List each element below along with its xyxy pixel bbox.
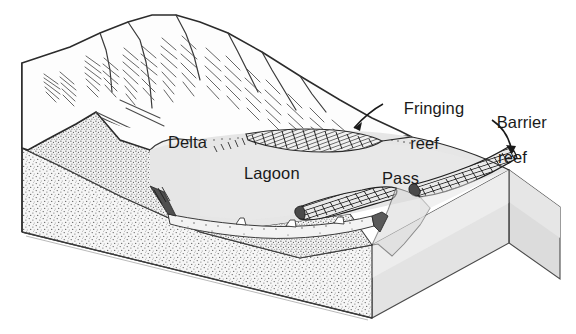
label-fringing-reef-line2: reef — [385, 135, 464, 152]
label-barrier-reef-line2: reef — [478, 149, 547, 166]
label-delta: Delta — [168, 134, 207, 151]
label-lagoon: Lagoon — [244, 165, 300, 182]
label-fringing-reef: Fringing reef — [385, 83, 464, 187]
label-fringing-reef-line1: Fringing — [404, 99, 464, 117]
label-barrier-reef-line1: Barrier — [497, 113, 547, 131]
label-barrier-reef: Barrier reef — [478, 97, 547, 201]
reef-block-diagram: Delta Lagoon Pass Fringing reef Barrier … — [0, 0, 576, 334]
